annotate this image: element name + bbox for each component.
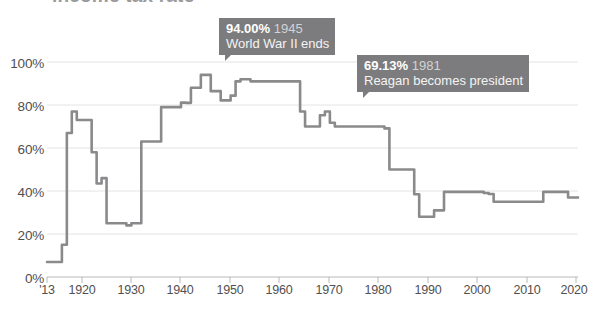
annotation-value: 69.13% bbox=[364, 58, 408, 73]
x-tick-label-2010: 2010 bbox=[513, 283, 540, 297]
x-tick-label-2000: 2000 bbox=[463, 283, 490, 297]
annotation-pointer-icon bbox=[225, 54, 232, 61]
annotation-pointer-icon bbox=[363, 91, 370, 98]
x-tick-label-1930: 1930 bbox=[117, 283, 144, 297]
annotation-description: World War II ends bbox=[226, 36, 329, 51]
x-tick-label-1970: 1970 bbox=[315, 283, 342, 297]
x-tick-label-1940: 1940 bbox=[166, 283, 193, 297]
x-tick-label-1990: 1990 bbox=[414, 283, 441, 297]
chart-container: income tax rate 100% 80% 60% 40% 20% 0% bbox=[0, 0, 593, 315]
annotation-callout-wwii[interactable]: 94.00% 1945 World War II ends bbox=[219, 18, 335, 55]
x-axis-labels: '13 1920 1930 1940 1950 1960 1970 1980 1… bbox=[0, 283, 593, 305]
x-tick-label-1980: 1980 bbox=[364, 283, 391, 297]
x-tick-label-1960: 1960 bbox=[265, 283, 292, 297]
x-tick-label-2020: 2020 bbox=[560, 283, 587, 297]
x-tick-label-1920: 1920 bbox=[68, 283, 95, 297]
annotation-value: 94.00% bbox=[226, 21, 270, 36]
x-tick-label-1950: 1950 bbox=[216, 283, 243, 297]
annotation-year: 1945 bbox=[274, 21, 303, 36]
annotation-year: 1981 bbox=[412, 58, 441, 73]
annotation-callout-reagan[interactable]: 69.13% 1981 Reagan becomes president bbox=[357, 55, 529, 92]
x-tick-label-1913: '13 bbox=[39, 283, 55, 297]
annotation-description: Reagan becomes president bbox=[364, 73, 523, 88]
